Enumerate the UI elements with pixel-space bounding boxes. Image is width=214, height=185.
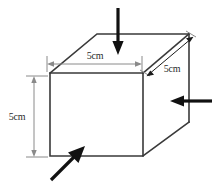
- force-arrow-bottom-left-shaft: [51, 155, 76, 180]
- cube-force-diagram: 5cm 5cm 5cm: [0, 0, 214, 185]
- dimension-height: 5cm: [9, 76, 48, 157]
- dimension-height-bottom-arrow-icon: [31, 150, 36, 157]
- cube-shape: [50, 34, 189, 156]
- dimension-top-width-left-arrow-icon: [47, 61, 54, 66]
- dimension-top-width-label: 5cm: [87, 50, 104, 61]
- dimension-height-label: 5cm: [9, 111, 26, 122]
- cube-front-face: [50, 73, 143, 156]
- diagram-canvas: 5cm 5cm 5cm: [0, 0, 214, 185]
- dimension-height-top-arrow-icon: [31, 76, 36, 83]
- dimension-depth-label: 5cm: [164, 63, 181, 74]
